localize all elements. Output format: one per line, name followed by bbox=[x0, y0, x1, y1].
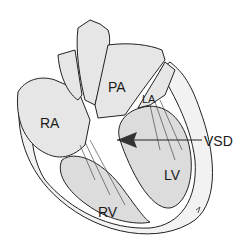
left-ventricle bbox=[119, 106, 192, 208]
label-lv: LV bbox=[164, 168, 180, 182]
label-vsd: VSD bbox=[204, 134, 233, 148]
label-pa: PA bbox=[108, 80, 126, 94]
label-la: LA bbox=[142, 94, 155, 105]
heart-diagram bbox=[0, 0, 246, 252]
label-rv: RV bbox=[98, 205, 117, 219]
label-ra: RA bbox=[40, 116, 59, 130]
